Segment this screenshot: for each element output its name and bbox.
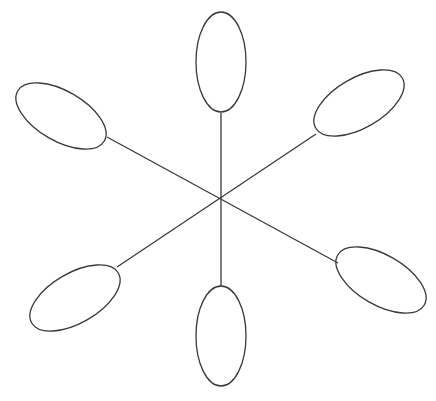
radial-ellipse-diagram [0,0,436,401]
lobe-lower-right [325,233,436,326]
spoke-group [107,113,338,286]
lobe-top [196,12,246,112]
lobe-upper-right [303,56,415,149]
spoke-upper-right-to-lower-left [117,134,316,267]
diagram-canvas [0,0,436,401]
lobe-upper-left [5,69,117,162]
lobe-bottom [196,286,246,386]
spoke-upper-left-to-lower-right [107,137,338,263]
lobe-lower-left [19,251,131,344]
